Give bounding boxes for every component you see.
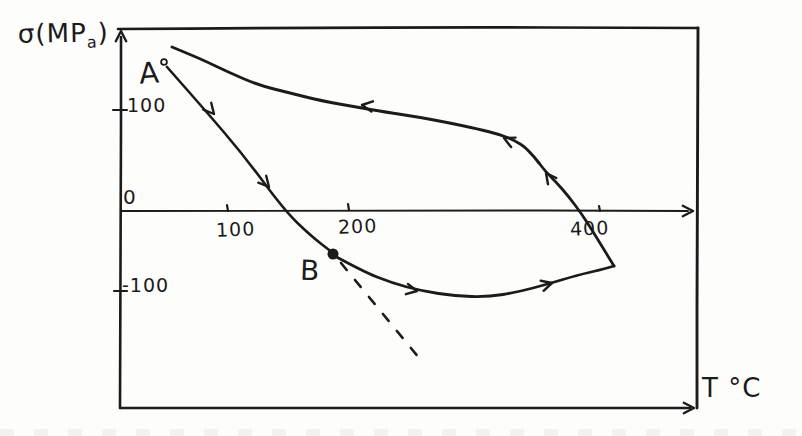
x-axis-title: T °C bbox=[702, 375, 761, 401]
stroke-upper-branch-return bbox=[172, 47, 539, 163]
stroke-lower-branch-b-to-vertex bbox=[333, 255, 614, 297]
stroke-tick-x-100 bbox=[227, 205, 228, 211]
stroke-right-steep-branch bbox=[539, 163, 614, 266]
hysteresis-plot-svg bbox=[0, 0, 802, 436]
y-tick-label-neg-100: -100 bbox=[122, 276, 169, 295]
y-axis-title-sub: a bbox=[87, 33, 98, 52]
y-axis-title: σ(MPa) bbox=[18, 19, 109, 52]
y-tick-label-0: 0 bbox=[123, 187, 137, 207]
stroke-tick-x-400 bbox=[599, 206, 600, 211]
stroke-zero-line bbox=[121, 210, 688, 211]
y-axis-title-close: ) bbox=[97, 17, 109, 47]
y-axis-title-main: σ(MP bbox=[18, 18, 87, 49]
stroke-frame-top bbox=[118, 27, 698, 29]
y-tick-label-100: 100 bbox=[127, 96, 166, 115]
x-tick-label-400: 400 bbox=[570, 218, 610, 238]
stroke-y-axis bbox=[120, 37, 121, 408]
point-a-label: A bbox=[138, 58, 161, 88]
x-tick-label-200: 200 bbox=[338, 216, 378, 236]
point-a-start-circle bbox=[161, 59, 167, 65]
stroke-frame-right bbox=[697, 28, 698, 408]
upper-arrow-main-icon bbox=[362, 101, 373, 111]
point-b-dot bbox=[328, 249, 337, 258]
figure-canvas: σ(MPa) A B 100 0 -100 100 200 400 T °C bbox=[0, 0, 802, 436]
point-b-label: B bbox=[300, 257, 321, 286]
stroke-tick-x-200 bbox=[348, 204, 349, 210]
x-tick-label-100: 100 bbox=[216, 219, 256, 239]
